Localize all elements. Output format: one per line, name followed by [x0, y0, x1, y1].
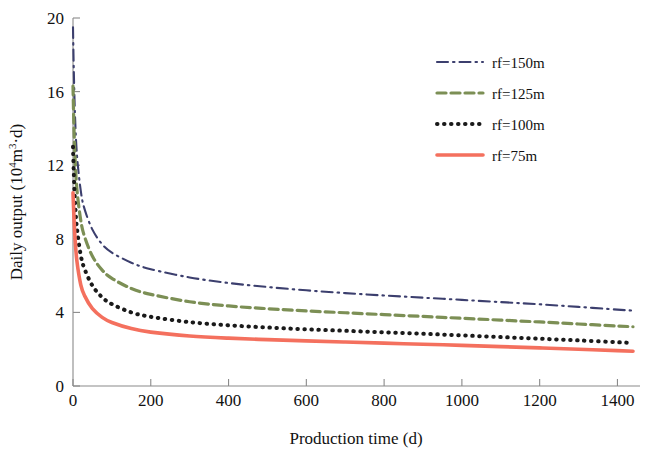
x-axis-title: Production time (d)	[289, 429, 422, 448]
x-axis-ticks	[73, 379, 617, 386]
x-tick-label: 800	[371, 391, 397, 410]
x-tick-label: 1400	[600, 391, 634, 410]
legend-label: rf=125m	[492, 86, 545, 102]
y-tick-label: 20	[47, 9, 64, 28]
x-axis-tick-labels: 0200400600800100012001400	[69, 391, 635, 410]
y-tick-label: 8	[56, 230, 65, 249]
legend-label: rf=100m	[492, 117, 545, 133]
legend-item: rf=100m	[437, 117, 545, 133]
chart-legend: rf=150mrf=125mrf=100mrf=75m	[437, 55, 545, 164]
series-line-rf-75m	[73, 193, 633, 351]
legend-item: rf=150m	[437, 55, 545, 71]
y-axis-title-mid: m	[7, 149, 26, 162]
legend-label: rf=75m	[492, 148, 537, 164]
x-tick-label: 0	[69, 391, 78, 410]
svg-text:Daily output (104m3·d): Daily output (104m3·d)	[6, 124, 26, 280]
x-tick-label: 1200	[523, 391, 557, 410]
x-tick-label: 400	[216, 391, 242, 410]
y-axis-title-main: Daily output (10	[7, 168, 26, 280]
production-decline-chart: 048121620 0200400600800100012001400 Prod…	[0, 0, 648, 451]
series-line-rf-125m	[73, 86, 633, 327]
legend-item: rf=75m	[437, 148, 537, 164]
y-tick-label: 16	[47, 83, 64, 102]
x-tick-label: 200	[138, 391, 164, 410]
x-tick-label: 600	[294, 391, 320, 410]
data-series-group	[73, 27, 633, 351]
series-line-rf-150m	[73, 27, 633, 310]
y-tick-label: 12	[47, 156, 64, 175]
legend-item: rf=125m	[437, 86, 545, 102]
y-axis-tick-labels: 048121620	[47, 9, 65, 396]
x-tick-label: 1000	[445, 391, 479, 410]
legend-label: rf=150m	[492, 55, 545, 71]
y-axis-title-end: ·d)	[7, 124, 26, 144]
y-tick-label: 0	[56, 377, 65, 396]
axes-group	[73, 18, 640, 386]
y-tick-label: 4	[56, 303, 65, 322]
y-axis-title: Daily output (104m3·d)	[6, 124, 26, 280]
chart-canvas: 048121620 0200400600800100012001400 Prod…	[0, 0, 648, 451]
